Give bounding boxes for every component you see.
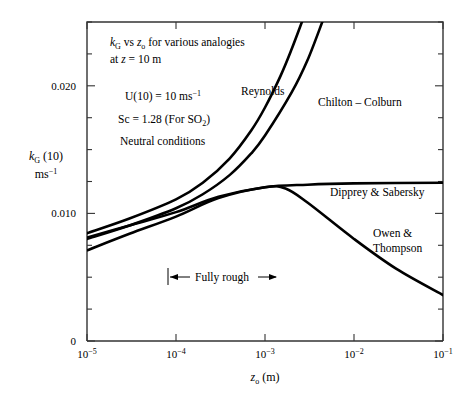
plot-frame	[87, 22, 443, 341]
note-line3-base: U(10) = 10 ms	[125, 90, 193, 103]
curve-label-reynolds: Reynolds	[241, 85, 285, 98]
fully-rough-label: Fully rough	[195, 271, 249, 284]
y-axis-units-base: ms	[35, 167, 49, 181]
x-tick-exponent: −1	[444, 347, 453, 356]
x-axis-ticks	[87, 22, 443, 341]
svg-text:kG (10): kG (10)	[29, 149, 63, 165]
x-axis-title-rest: (m)	[259, 370, 279, 384]
curve-label-owen-thompson-2: Thompson	[373, 242, 422, 255]
x-tick-label-0: 10−5	[77, 347, 97, 360]
y-tick-label-2: 0.020	[51, 80, 76, 92]
curve-labels: Reynolds Chilton – Colburn Dipprey & Sab…	[241, 85, 425, 255]
note-line4-pre: Sc = 1.28 (For SO	[118, 113, 202, 126]
note-line1-rest: for various analogies	[145, 36, 245, 49]
figure-container: 00.0100.020 10−510−410−310−210−1 zo (m) …	[0, 0, 465, 400]
x-tick-exponent: −5	[88, 347, 97, 356]
y-tick-label-1: 0.010	[51, 207, 76, 219]
note-line5: Neutral conditions	[120, 135, 206, 147]
note-line2-rest: = 10 m	[126, 53, 162, 65]
curve-label-dipprey-sabersky: Dipprey & Sabersky	[330, 186, 425, 199]
y-axis-ticks	[87, 22, 443, 341]
svg-text:U(10) = 10 ms−1: U(10) = 10 ms−1	[125, 89, 201, 103]
x-axis-title: zo (m)	[250, 370, 280, 386]
notes-block: kG vs zo for various analogies at z = 10…	[110, 36, 245, 147]
x-tick-exponent: −3	[266, 347, 275, 356]
y-axis-title: kG (10) ms−1	[29, 149, 63, 181]
x-tick-mantissa: 10	[344, 348, 356, 360]
x-axis-tick-labels: 10−510−410−310−210−1	[77, 347, 453, 360]
x-tick-label-2: 10−3	[255, 347, 275, 360]
x-tick-mantissa: 10	[433, 348, 445, 360]
x-tick-exponent: −4	[177, 347, 186, 356]
y-axis-title-rest: (10)	[40, 149, 63, 163]
x-tick-label-3: 10−2	[344, 347, 364, 360]
curve-owen-thompson	[87, 186, 443, 295]
x-tick-mantissa: 10	[77, 348, 89, 360]
note-line2-pre: at	[110, 53, 121, 65]
y-axis-units-sup: −1	[49, 167, 58, 176]
kg-vs-z0-chart: 00.0100.020 10−510−410−310−210−1 zo (m) …	[0, 0, 465, 400]
curve-label-chilton-colburn: Chilton – Colburn	[318, 96, 402, 108]
x-tick-label-4: 10−1	[433, 347, 453, 360]
x-tick-mantissa: 10	[255, 348, 267, 360]
x-tick-label-1: 10−4	[166, 347, 186, 360]
curve-label-owen-thompson-1: Owen &	[373, 227, 412, 239]
y-axis-tick-labels: 00.0100.020	[51, 80, 76, 347]
fully-rough-annotation: Fully rough	[168, 268, 277, 285]
x-tick-mantissa: 10	[166, 348, 178, 360]
note-line4-post: )	[206, 113, 210, 126]
svg-text:zo (m): zo (m)	[250, 370, 280, 386]
svg-text:ms−1: ms−1	[35, 167, 58, 181]
svg-text:Sc = 1.28 (For SO2): Sc = 1.28 (For SO2)	[118, 113, 210, 128]
note-vs: vs	[121, 36, 137, 48]
svg-text:kG vs zo for various analogie: kG vs zo for various analogies	[110, 36, 245, 51]
note-line3-sup: −1	[193, 89, 202, 98]
x-tick-exponent: −2	[355, 347, 364, 356]
y-tick-label-0: 0	[71, 335, 77, 347]
svg-text:at z = 10 m: at z = 10 m	[110, 53, 161, 65]
